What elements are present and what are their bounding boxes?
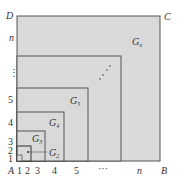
x-tick-1: 1 bbox=[17, 165, 22, 176]
corner-label-a: A bbox=[7, 165, 15, 176]
diagonal-dot bbox=[99, 78, 101, 80]
diagonal-dot bbox=[109, 65, 111, 67]
diagonal-dot bbox=[102, 74, 104, 76]
y-tick-3: 3 bbox=[8, 136, 13, 147]
x-tick-4: 4 bbox=[52, 165, 57, 176]
x-tick-n: n bbox=[137, 165, 142, 176]
y-tick-5: 5 bbox=[8, 94, 13, 105]
corner-label-c: C bbox=[164, 11, 171, 22]
x-tick-5: 5 bbox=[74, 165, 79, 176]
nested-squares-diagram: D C A B 1 2 3 4 5 ··· n 1 2 3 4 5 ⋮ n G2… bbox=[0, 0, 185, 190]
x-tick-2: 2 bbox=[25, 165, 30, 176]
x-tick-3: 3 bbox=[35, 165, 40, 176]
x-tick-ellipsis: ··· bbox=[98, 163, 108, 174]
square-1 bbox=[17, 155, 22, 161]
diagonal-dot bbox=[106, 69, 108, 71]
y-tick-4: 4 bbox=[8, 117, 13, 128]
y-tick-n: n bbox=[9, 32, 14, 43]
y-tick-ellipsis: ⋮ bbox=[9, 67, 19, 78]
corner-label-b: B bbox=[161, 165, 167, 176]
corner-label-d: D bbox=[5, 10, 14, 21]
